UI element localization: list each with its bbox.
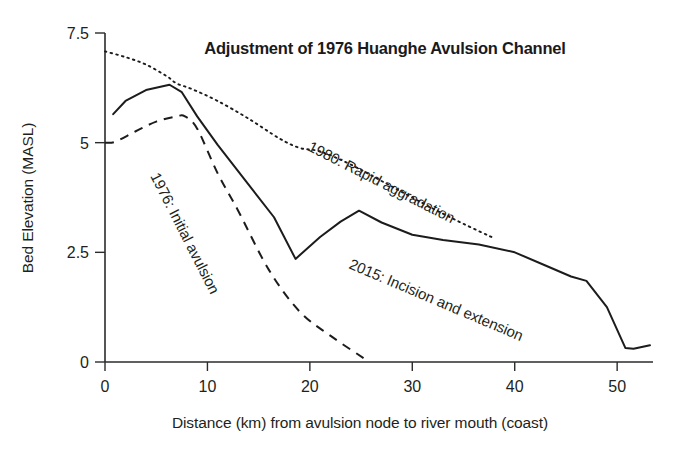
x-axis-title: Distance (km) from avulsion node to rive… — [172, 414, 548, 431]
bed-elevation-line-chart: Adjustment of 1976 Huanghe Avulsion Chan… — [0, 0, 683, 449]
y-tick-label: 2.5 — [67, 244, 89, 261]
x-tick-label: 20 — [301, 378, 319, 395]
x-tick-label: 40 — [506, 378, 524, 395]
y-tick-label: 7.5 — [67, 25, 89, 42]
x-tick-label: 50 — [608, 378, 626, 395]
plot-area-background — [105, 33, 653, 362]
y-axis-title: Bed Elevation (MASL) — [19, 123, 36, 274]
y-tick-label: 0 — [80, 354, 89, 371]
x-tick-label: 0 — [101, 378, 110, 395]
chart-title: Adjustment of 1976 Huanghe Avulsion Chan… — [204, 39, 565, 57]
chart-figure: Adjustment of 1976 Huanghe Avulsion Chan… — [0, 0, 683, 449]
x-tick-label: 30 — [403, 378, 421, 395]
x-tick-label: 10 — [199, 378, 217, 395]
y-tick-label: 5 — [80, 135, 89, 152]
x-axis-ticks: 01020304050 — [101, 362, 627, 395]
y-axis-ticks: 02.557.5 — [67, 25, 105, 371]
